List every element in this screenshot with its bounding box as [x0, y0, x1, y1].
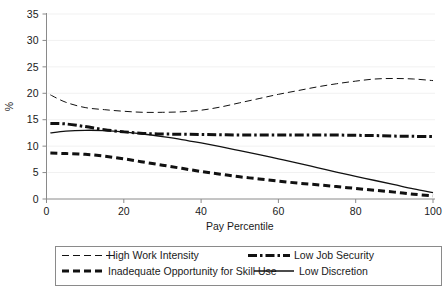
- line-chart-svg: 05101520253035 020406080100 Pay Percenti…: [0, 0, 447, 293]
- y-tick-label: 0: [33, 193, 39, 205]
- x-axis-ticks: 020406080100: [44, 199, 442, 217]
- x-tick-label: 0: [44, 205, 50, 217]
- x-axis-title: Pay Percentile: [206, 220, 274, 232]
- y-tick-label: 15: [27, 113, 39, 125]
- y-axis-ticks: 05101520253035: [27, 8, 47, 205]
- x-tick-label: 60: [273, 205, 285, 217]
- y-tick-label: 25: [27, 61, 39, 73]
- x-tick-label: 20: [118, 205, 130, 217]
- gridlines: [48, 14, 436, 173]
- y-tick-label: 5: [33, 166, 39, 178]
- legend-label-inadequate-opportunity-for-skill-use[interactable]: Inadequate Opportunity for Skill Use: [108, 265, 277, 277]
- x-tick-label: 100: [424, 205, 442, 217]
- y-tick-label: 35: [27, 8, 39, 20]
- y-tick-label: 20: [27, 87, 39, 99]
- series-lines: [50, 78, 433, 195]
- x-tick-label: 40: [195, 205, 207, 217]
- legend-label-low-job-security[interactable]: Low Job Security: [294, 249, 375, 261]
- series-line-low-discretion: [50, 130, 433, 192]
- legend-items: High Work IntensityLow Job SecurityInade…: [62, 249, 375, 277]
- chart-figure: 05101520253035 020406080100 Pay Percenti…: [0, 0, 447, 293]
- legend-label-high-work-intensity[interactable]: High Work Intensity: [108, 249, 200, 261]
- legend: High Work IntensityLow Job SecurityInade…: [56, 247, 442, 286]
- y-tick-label: 30: [27, 34, 39, 46]
- series-line-low-job-security: [50, 123, 433, 136]
- series-line-high-work-intensity: [50, 78, 433, 112]
- series-line-inadequate-opportunity-for-skill-use: [50, 153, 433, 196]
- y-axis-title: %: [3, 102, 15, 111]
- y-tick-label: 10: [27, 140, 39, 152]
- x-tick-label: 80: [350, 205, 362, 217]
- legend-label-low-discretion[interactable]: Low Discretion: [299, 265, 368, 277]
